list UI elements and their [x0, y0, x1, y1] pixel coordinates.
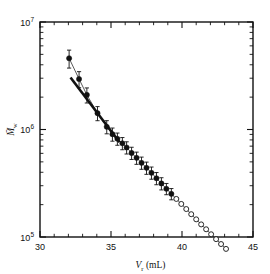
chart-figure: 30354045105106107Vr (mL)M̄w [0, 0, 270, 274]
data-point-filled [149, 170, 154, 175]
data-point-filled [139, 160, 144, 165]
data-point-filled [154, 176, 159, 181]
data-point-filled [169, 191, 174, 196]
data-point-open [194, 217, 199, 222]
y-axis-title: M̄w [6, 123, 18, 137]
data-point-open [189, 212, 194, 217]
x-axis-title: Vr (mL) [136, 260, 166, 272]
data-point-filled [164, 186, 169, 191]
data-connecting-line [69, 58, 226, 249]
scatter-plot-svg: 30354045105106107Vr (mL)M̄w [0, 0, 270, 274]
y-tick-label: 105 [20, 231, 34, 243]
data-point-open [214, 237, 219, 242]
data-point-filled [120, 141, 125, 146]
data-point-filled [115, 136, 120, 141]
data-point-open [179, 201, 184, 206]
x-tick-label: 40 [177, 242, 187, 252]
data-point-open [184, 207, 189, 212]
data-point-filled [159, 181, 164, 186]
x-tick-label: 35 [106, 242, 116, 252]
data-point-filled [95, 111, 100, 116]
data-point-filled [144, 165, 149, 170]
x-tick-label: 45 [248, 242, 258, 252]
data-point-filled [76, 76, 81, 81]
data-point-filled [67, 56, 72, 61]
data-point-open [219, 242, 224, 247]
y-tick-label: 106 [20, 123, 34, 135]
data-point-filled [129, 150, 134, 155]
y-tick-label: 107 [20, 16, 34, 28]
data-point-open [204, 227, 209, 232]
data-point-filled [84, 92, 89, 97]
data-point-filled [104, 124, 109, 129]
data-point-open [174, 196, 179, 201]
plot-frame [40, 22, 253, 237]
data-point-open [224, 246, 229, 251]
x-tick-label: 30 [35, 242, 45, 252]
data-point-open [199, 222, 204, 227]
data-point-filled [134, 155, 139, 160]
data-point-filled [110, 132, 115, 137]
data-point-filled [124, 145, 129, 150]
data-point-open [209, 232, 214, 237]
